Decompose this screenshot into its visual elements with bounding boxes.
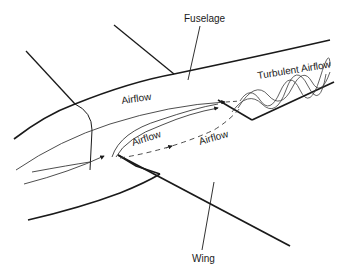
upper-structure-lines: [26, 25, 174, 104]
airflow-diagram: Fuselage Wing Turbulent Airflow Airflow …: [0, 0, 348, 278]
wing-label: Wing: [192, 253, 215, 264]
airflow-top-label: Airflow: [121, 91, 153, 106]
wing-shape: [118, 82, 334, 246]
turbulent-airflow-label: Turbulent Airflow: [257, 58, 333, 81]
airflow-lower-wing-label: Airflow: [198, 128, 231, 147]
fuselage-label: Fuselage: [184, 13, 226, 24]
